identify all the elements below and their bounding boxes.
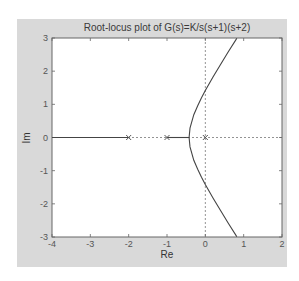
- x-tick-label: 2: [279, 239, 284, 249]
- y-axis-label: Im: [21, 132, 32, 143]
- x-tick-label: -2: [125, 239, 133, 249]
- x-axis-label: Re: [161, 249, 174, 260]
- y-tick-label: 2: [43, 66, 48, 76]
- x-tick-label: -1: [163, 239, 171, 249]
- root-locus-chart: -4-3-2-1012-3-2-10123 Root-locus plot of…: [0, 0, 299, 281]
- chart-title: Root-locus plot of G(s)=K/s(s+1)(s+2): [84, 22, 250, 33]
- y-tick-label: 0: [43, 133, 48, 143]
- y-tick-label: -3: [40, 232, 48, 242]
- x-tick-label: 0: [203, 239, 208, 249]
- x-tick-label: 1: [241, 239, 246, 249]
- y-tick-label: -2: [40, 199, 48, 209]
- y-tick-label: 3: [43, 33, 48, 43]
- x-tick-label: -4: [48, 239, 56, 249]
- x-tick-label: -3: [86, 239, 94, 249]
- y-tick-label: 1: [43, 99, 48, 109]
- y-tick-label: -1: [40, 166, 48, 176]
